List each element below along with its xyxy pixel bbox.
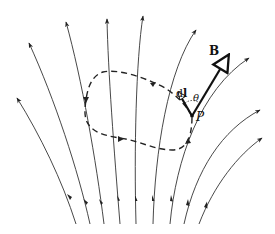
loop-arrow-icon (150, 82, 156, 87)
diagram-canvas: B dl θ P (0, 0, 275, 234)
arrowhead-icon (117, 195, 120, 201)
label-dl-l: l (183, 87, 187, 100)
field-line-2 (29, 43, 90, 224)
label-theta: θ (193, 92, 199, 103)
field-line-4 (107, 19, 120, 224)
arrowhead-icon (186, 199, 190, 206)
label-b: B (209, 44, 219, 58)
loop-arrow-icon (185, 138, 191, 144)
field-line-midarrows (67, 194, 208, 209)
arrowhead-icon (170, 195, 173, 202)
b-vector (192, 56, 228, 116)
loop-arrow-icon (118, 136, 124, 142)
arrowhead-icon (204, 202, 208, 209)
field-line-8 (184, 110, 260, 224)
label-dl: dl (176, 87, 187, 100)
label-p: P (195, 110, 205, 124)
amperian-loop (85, 71, 192, 150)
field-line-9 (199, 138, 262, 224)
label-dl-d: d (176, 87, 183, 100)
field-line-3 (66, 22, 104, 224)
field-lines (17, 16, 262, 224)
point-p-dot (190, 114, 194, 118)
field-line-7 (170, 58, 249, 224)
arrowhead-icon (84, 199, 89, 205)
field-line-1 (17, 98, 76, 224)
field-line-6 (153, 30, 196, 224)
field-line-5 (135, 16, 143, 224)
